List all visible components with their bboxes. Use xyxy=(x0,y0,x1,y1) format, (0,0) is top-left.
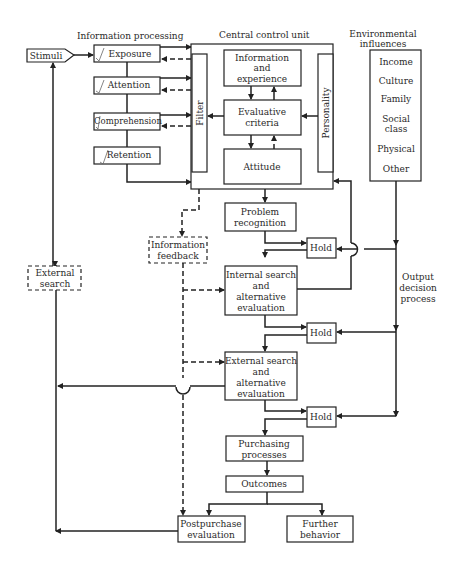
problem-label-1: Problem xyxy=(241,207,280,217)
personality-label: Personality xyxy=(321,87,331,139)
internal-label-3: alternative xyxy=(236,292,286,302)
postpurchase-label-1: Postpurchase xyxy=(180,519,241,529)
outcomes-label: Outcomes xyxy=(241,479,287,489)
internal-label-2: and xyxy=(253,281,270,291)
external-eval-label-3: alternative xyxy=(236,378,286,388)
env-income: Income xyxy=(379,57,413,67)
env-social: Social xyxy=(382,114,410,124)
further-behavior-node: Further behavior xyxy=(287,516,353,542)
purchasing-label-1: Purchasing xyxy=(238,439,290,449)
external-search-label-2: search xyxy=(40,279,71,289)
info-experience-label-1: Information xyxy=(235,53,289,63)
hold-node-2: Hold xyxy=(307,323,336,343)
comprehension-label: Comprehension xyxy=(94,116,162,126)
information-feedback-node: Information feedback xyxy=(149,237,207,263)
attention-node: Attention xyxy=(94,77,160,94)
postpurchase-evaluation-node: Postpurchase evaluation xyxy=(178,516,245,542)
internal-label-1: Internal search xyxy=(226,270,296,280)
env-other: Other xyxy=(383,164,410,174)
environmental-influences-label-2: influences xyxy=(360,39,407,49)
further-behavior-label-1: Further xyxy=(302,519,338,529)
information-processing-label: Information processing xyxy=(77,31,184,41)
external-search-node: External search xyxy=(28,266,81,290)
hold-node-3: Hold xyxy=(307,407,336,427)
comprehension-node: Comprehension xyxy=(94,113,162,130)
external-eval-label-1: External search xyxy=(225,356,297,366)
hold-label-1: Hold xyxy=(310,243,332,253)
retention-node: Retention xyxy=(94,147,160,164)
internal-search-node: Internal search and alternative evaluati… xyxy=(225,266,297,315)
problem-label-2: recognition xyxy=(234,218,286,228)
environmental-influences-box: Income Culture Family Social class Physi… xyxy=(370,50,421,181)
hold-label-3: Hold xyxy=(310,412,332,422)
problem-recognition-node: Problem recognition xyxy=(225,203,296,231)
hold-label-2: Hold xyxy=(310,328,332,338)
output-label-2: decision xyxy=(399,283,437,293)
env-family: Family xyxy=(381,94,412,104)
postpurchase-label-2: evaluation xyxy=(187,530,235,540)
external-search-eval-node: External search and alternative evaluati… xyxy=(225,352,297,400)
info-experience-label-3: experience xyxy=(237,74,287,84)
hold-node-1: Hold xyxy=(307,238,336,258)
external-eval-label-2: and xyxy=(253,367,270,377)
environmental-influences-label-1: Environmental xyxy=(349,29,416,39)
attention-label: Attention xyxy=(107,80,151,90)
attitude-label: Attitude xyxy=(243,162,281,172)
consumer-decision-diagram: Information processing Central control u… xyxy=(0,0,457,571)
evaluative-criteria-label-1: Evaluative xyxy=(238,107,286,117)
exposure-label: Exposure xyxy=(109,49,152,59)
stimuli-node: Stimuli xyxy=(27,49,74,62)
external-eval-label-4: evaluation xyxy=(237,389,285,399)
internal-label-4: evaluation xyxy=(237,303,285,313)
info-feedback-label-2: feedback xyxy=(157,251,199,261)
output-label-3: process xyxy=(400,294,435,304)
output-label-1: Output xyxy=(402,272,434,282)
retention-label: Retention xyxy=(107,150,152,160)
stimuli-label: Stimuli xyxy=(30,51,63,61)
env-class: class xyxy=(385,124,408,134)
further-behavior-label-2: behavior xyxy=(300,530,341,540)
central-control-unit-label: Central control unit xyxy=(219,30,310,40)
evaluative-criteria-label-2: criteria xyxy=(245,118,279,128)
exposure-node: Exposure xyxy=(94,45,160,62)
env-culture: Culture xyxy=(379,76,414,86)
central-control-unit: Filter Personality Information and exper… xyxy=(191,44,333,189)
external-search-label-1: External xyxy=(36,268,75,278)
filter-label: Filter xyxy=(195,100,205,126)
outcomes-node: Outcomes xyxy=(226,476,303,492)
info-feedback-label-1: Information xyxy=(151,240,205,250)
env-physical: Physical xyxy=(377,144,415,154)
info-experience-label-2: and xyxy=(254,63,271,73)
purchasing-processes-node: Purchasing processes xyxy=(226,436,303,461)
purchasing-label-2: processes xyxy=(241,450,286,460)
